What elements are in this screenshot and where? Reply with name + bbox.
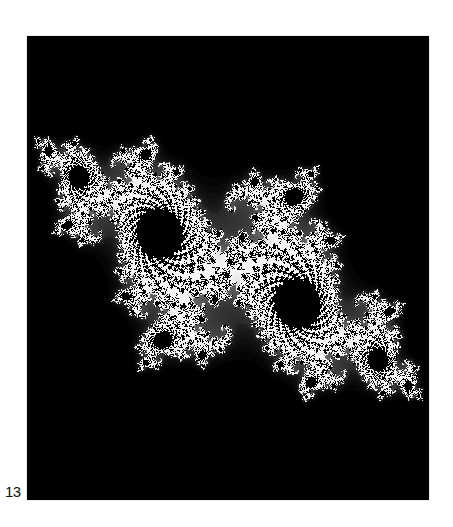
fractal-image-panel [27, 36, 429, 500]
julia-set-fractal [27, 36, 429, 500]
figure-number-label: 13 [5, 484, 21, 500]
